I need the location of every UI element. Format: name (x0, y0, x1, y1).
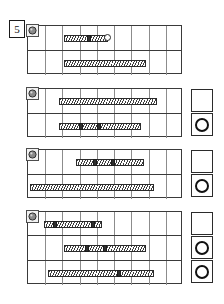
status-box-ring[interactable] (191, 236, 213, 259)
column-gridline (166, 150, 167, 174)
ring-icon (195, 179, 209, 193)
status-box-empty[interactable] (191, 150, 213, 173)
timeline-grid (27, 211, 182, 284)
task-bar-divider (111, 159, 115, 166)
column-gridline (166, 175, 167, 200)
task-bar-divider (117, 270, 121, 277)
column-gridline (45, 261, 46, 285)
task-bar-divider (53, 221, 57, 228)
schedule-block (27, 88, 182, 137)
timeline-grid (27, 25, 182, 74)
timeline-row[interactable] (28, 89, 181, 114)
column-gridline (62, 51, 63, 76)
timeline-grid (27, 149, 182, 198)
task-bar-divider (97, 123, 101, 130)
column-gridline (149, 114, 150, 139)
timeline-grid (27, 88, 182, 137)
schedule-block (27, 25, 182, 74)
ring-icon (195, 118, 209, 132)
task-bar[interactable] (59, 98, 157, 105)
column-gridline (149, 150, 150, 174)
column-gridline (149, 26, 150, 50)
status-box-empty[interactable] (191, 212, 213, 235)
timeline-row[interactable] (28, 150, 181, 175)
machine-icon (26, 148, 39, 161)
task-bar[interactable] (64, 35, 108, 42)
column-gridline (166, 51, 167, 76)
timeline-row[interactable] (28, 175, 181, 200)
column-gridline (166, 261, 167, 285)
ring-icon (195, 241, 209, 255)
column-gridline (114, 26, 115, 50)
machine-icon (26, 210, 39, 223)
column-gridline (166, 26, 167, 50)
column-gridline (62, 236, 63, 259)
timeline-row[interactable] (28, 114, 181, 139)
task-bar-end-marker (104, 34, 111, 41)
column-gridline (131, 212, 132, 235)
task-bar-divider (93, 159, 97, 166)
status-box-ring[interactable] (191, 260, 213, 283)
machine-icon (26, 87, 39, 100)
task-bar-divider (91, 221, 95, 228)
column-gridline (62, 26, 63, 50)
task-bar[interactable] (44, 221, 102, 228)
status-box-ring[interactable] (191, 174, 213, 197)
step-number-badge: 5 (9, 20, 25, 38)
column-gridline (114, 212, 115, 235)
status-box-empty[interactable] (191, 89, 213, 112)
task-bar[interactable] (76, 159, 144, 166)
column-gridline (45, 114, 46, 139)
timeline-row[interactable] (28, 236, 181, 260)
task-bar[interactable] (30, 184, 154, 191)
column-gridline (166, 89, 167, 113)
timeline-row[interactable] (28, 261, 181, 285)
machine-icon (26, 24, 39, 37)
column-gridline (166, 212, 167, 235)
scheduling-diagram: 5 (0, 0, 224, 304)
column-gridline (45, 51, 46, 76)
column-gridline (62, 150, 63, 174)
ring-icon (195, 265, 209, 279)
task-bar[interactable] (64, 245, 146, 252)
column-gridline (45, 89, 46, 113)
schedule-block (27, 149, 182, 198)
column-gridline (166, 236, 167, 259)
column-gridline (149, 212, 150, 235)
column-gridline (149, 236, 150, 259)
column-gridline (45, 150, 46, 174)
task-bar-divider (87, 35, 91, 42)
column-gridline (166, 114, 167, 139)
task-bar-divider (103, 245, 107, 252)
status-box-ring[interactable] (191, 113, 213, 136)
schedule-block (27, 211, 182, 284)
timeline-row[interactable] (28, 51, 181, 76)
timeline-row[interactable] (28, 212, 181, 236)
task-bar[interactable] (59, 123, 141, 130)
column-gridline (45, 236, 46, 259)
task-bar[interactable] (48, 270, 154, 277)
column-gridline (149, 51, 150, 76)
column-gridline (45, 26, 46, 50)
task-bar-divider (79, 123, 83, 130)
column-gridline (131, 26, 132, 50)
task-bar-divider (85, 245, 89, 252)
task-bar[interactable] (64, 60, 146, 67)
timeline-row[interactable] (28, 26, 181, 51)
